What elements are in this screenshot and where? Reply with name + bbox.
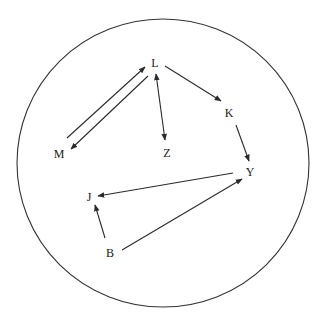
directed-graph-diagram: L M Z K Y J B: [0, 0, 324, 329]
node-y: Y: [246, 165, 255, 179]
node-j: J: [87, 190, 92, 204]
edge-l-to-m-arrow: [71, 76, 148, 149]
node-z: Z: [163, 146, 170, 160]
edge-l-to-k-arrow: [165, 66, 221, 101]
edges-group: [67, 66, 249, 250]
node-m: M: [54, 147, 65, 161]
node-l: L: [151, 56, 158, 70]
edge-m-to-l-arrow: [67, 67, 145, 138]
boundary-circle: [17, 19, 309, 307]
node-k: K: [225, 106, 234, 120]
edge-b-to-y-arrow: [122, 179, 242, 250]
edge-b-to-j-arrow: [95, 205, 105, 238]
edge-l-to-z-arrow: [156, 74, 165, 140]
nodes-group: L M Z K Y J B: [54, 56, 255, 260]
edge-k-to-y-arrow: [236, 125, 249, 161]
node-b: B: [106, 246, 114, 260]
edge-y-to-j-arrow: [98, 173, 233, 196]
